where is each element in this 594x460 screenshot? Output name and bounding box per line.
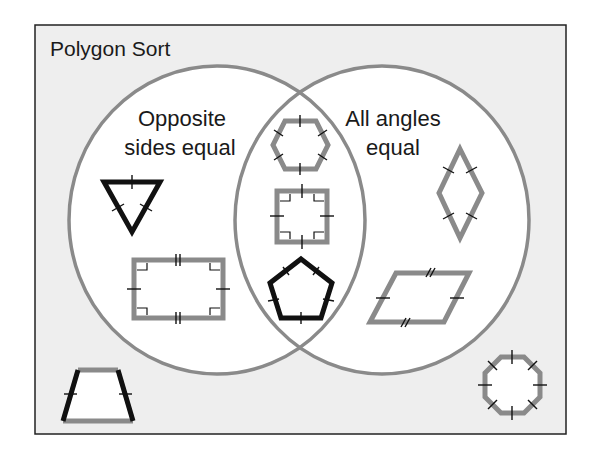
left-set-label-line1: Opposite (138, 106, 226, 131)
regular-hexagon-shape (273, 115, 328, 175)
rectangle-shape (127, 254, 230, 324)
right-set-label-line1: All angles (345, 106, 440, 131)
square-shape (270, 184, 334, 249)
right-set-label-line2: equal (366, 135, 420, 160)
diagram-title: Polygon Sort (50, 37, 170, 60)
polygon-sort-diagram: Polygon Sort Opposite sides equal All an… (0, 0, 594, 460)
isosceles-trapezoid-shape (63, 370, 133, 421)
left-set-label-line2: sides equal (124, 135, 235, 160)
